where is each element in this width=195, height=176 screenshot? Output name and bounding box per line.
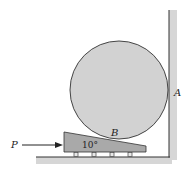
wedge-cylinder-diagram: P A B 10° — [0, 0, 195, 176]
label-contact-a: A — [173, 87, 181, 98]
label-contact-b: B — [110, 127, 118, 138]
rollers — [74, 153, 132, 157]
arrowhead-icon — [55, 142, 63, 148]
roller — [92, 153, 96, 157]
label-wedge-angle: 10° — [82, 140, 98, 150]
wall-shadow — [169, 10, 177, 160]
floor-shadow — [36, 157, 172, 164]
force-arrow — [22, 142, 63, 148]
roller — [128, 153, 132, 157]
roller — [74, 153, 78, 157]
label-force-p: P — [10, 139, 18, 150]
roller — [110, 153, 114, 157]
cylinder — [70, 41, 168, 139]
